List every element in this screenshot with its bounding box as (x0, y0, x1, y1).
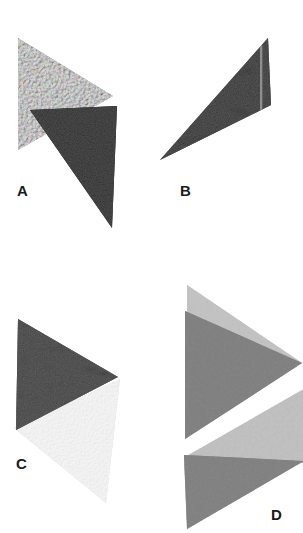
panel-a-graphic (0, 0, 152, 267)
panel-c-graphic (0, 267, 152, 533)
shape-single-triangle-b (152, 0, 303, 267)
panel-label-b: B (180, 183, 191, 198)
panel-label-a: A (17, 183, 28, 198)
panel-d: D (152, 267, 303, 533)
panel-label-c: C (16, 456, 27, 471)
panel-a: A (0, 0, 152, 267)
panel-b-graphic (152, 0, 303, 267)
figure-plate: A (0, 0, 303, 533)
panel-d-graphic (152, 267, 303, 533)
seam-line-b (260, 30, 262, 160)
panel-b: B (152, 0, 303, 267)
panel-label-d: D (271, 507, 282, 522)
panel-c: C (0, 267, 152, 533)
